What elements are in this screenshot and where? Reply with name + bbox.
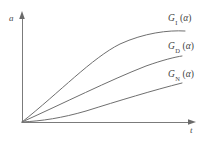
curve-label-g-i-symbol: G	[168, 13, 175, 23]
curve-label-g-i: GI(α)	[168, 14, 191, 25]
y-axis-arrowhead	[19, 11, 25, 19]
curve-label-g-i-paren-close: )	[188, 13, 191, 23]
curve-label-g-n: GN(α)	[168, 70, 194, 81]
curve-label-g-i-subscript: I	[175, 19, 177, 26]
curve-label-g-d-subscript: D	[175, 47, 180, 54]
curve-label-g-n-paren-close: )	[191, 69, 194, 79]
x-axis-label: t	[190, 126, 193, 135]
curve-label-g-n-symbol: G	[168, 69, 175, 79]
x-axis-arrowhead	[188, 119, 196, 124]
creep-curve-figure: a t GI(α) GD(α) GN(α)	[0, 0, 217, 150]
y-axis-label: a	[9, 14, 14, 23]
curve-label-g-d: GD(α)	[168, 42, 194, 53]
curve-g-i	[22, 31, 185, 122]
curve-label-g-n-subscript: N	[175, 75, 180, 82]
curve-label-g-d-symbol: G	[168, 41, 175, 51]
curve-label-g-d-paren-close: )	[191, 41, 194, 51]
